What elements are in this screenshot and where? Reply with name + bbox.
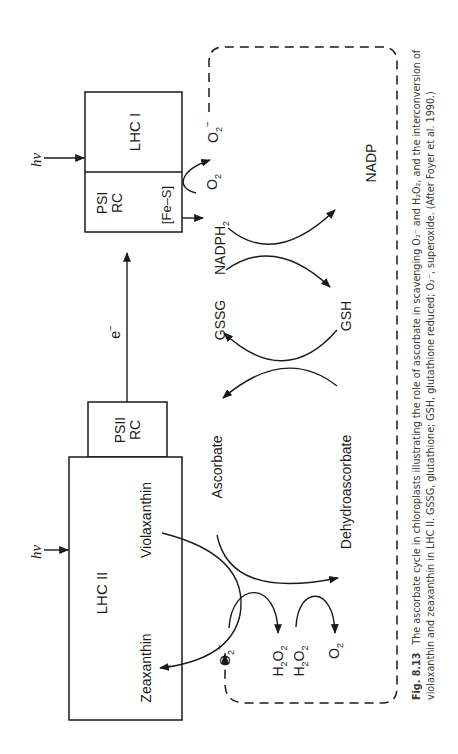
peroxide-scavenging-arrow	[296, 596, 335, 633]
ascorbate-label: Ascorbate	[209, 435, 225, 498]
gsh-oxidation-arrow	[224, 330, 337, 361]
violaxanthin-label: Violaxanthin	[138, 482, 154, 558]
psi-label: PSI	[94, 192, 110, 215]
dehydroascorbate-label: Dehydroascorbate	[338, 435, 354, 550]
fe-s-label: [Fe–S]	[159, 186, 174, 224]
nadph2-label: NADPH2	[212, 221, 231, 275]
caption-line-2: violaxanthin and zeaxanthin in LHC II. G…	[425, 91, 436, 700]
lhc-ii-label: LHC II	[93, 572, 110, 615]
h2o2-label-a: H2O2	[270, 645, 289, 676]
hv-label-top: hν	[28, 153, 44, 168]
lhc-ii-complex: LHC II Violaxanthin Zeaxanthin	[69, 457, 182, 720]
o2-label-top: O2	[204, 174, 223, 190]
ascorbate-oxidation-arrow	[217, 535, 338, 584]
lhc-ii-box	[69, 457, 182, 720]
lhc-i-label: LHC I	[126, 113, 143, 151]
gssg-reduction-arrow	[226, 256, 330, 287]
nadph-oxidation-arrow	[228, 210, 335, 244]
superoxide-label-top: O2−	[202, 121, 224, 143]
psii-complex: PSII RC	[88, 402, 167, 457]
o2-label-bottom: O2	[326, 643, 345, 659]
caption-line-1: Fig. 8.13The ascorbate cycle in chloropl…	[411, 49, 422, 700]
hv-label-bottom: hν	[28, 545, 44, 560]
psii-label: PSII	[112, 417, 128, 443]
figure-caption: Fig. 8.13The ascorbate cycle in chloropl…	[411, 49, 436, 700]
dehydroascorbate-reduction-arrow	[223, 368, 337, 398]
electron-label: e−	[105, 325, 123, 339]
ascorbate-cycle-figure: LHC I PSI RC [Fe–S] hν e− PSII RC LHC II	[0, 0, 458, 754]
nadp-label: NADP	[363, 144, 379, 183]
gsh-label: GSH	[338, 301, 354, 331]
zeaxanthin-label: Zeaxanthin	[138, 633, 154, 702]
psii-rc-label: RC	[127, 420, 143, 440]
psi-rc-label: RC	[109, 193, 125, 213]
h2o2-label-b: H2O2	[291, 645, 310, 676]
psi-complex: LHC I PSI RC [Fe–S]	[85, 92, 182, 232]
